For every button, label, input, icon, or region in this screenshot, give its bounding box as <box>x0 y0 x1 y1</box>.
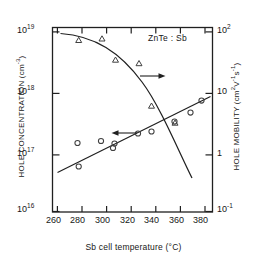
x-tick-label-260: 260 <box>46 215 61 225</box>
left-tick-label-1e16: 1016 <box>17 204 34 214</box>
right-tick-label-1e-1: 10-1 <box>217 204 233 214</box>
data-point-triangle <box>113 57 119 62</box>
data-point-circle <box>149 129 154 134</box>
y-axis-right-title: HOLE MOBILITY (cm2V-1s-1) <box>232 47 241 187</box>
concentration-data-points <box>75 98 204 169</box>
left-tick-label-1e19: 1019 <box>17 25 34 35</box>
mobility-data-points <box>76 36 178 125</box>
data-point-triangle <box>99 36 105 41</box>
bottom-axis-ticks <box>57 206 205 212</box>
x-tick-label-340: 340 <box>144 215 159 225</box>
data-point-circle <box>98 138 103 143</box>
x-tick-label-380: 380 <box>193 215 208 225</box>
right-axis-ticks <box>206 32 213 212</box>
right-pointer-arrow <box>140 73 166 78</box>
right-tick-label-1e2: 102 <box>217 25 231 35</box>
y-axis-left-title: HOLE CONCENTRATION (cm-3) <box>17 47 26 187</box>
right-tick-label-1: 1 <box>217 148 222 158</box>
figure-panel: ZnTe : Sb 1019 1018 1017 1016 102 10 1 1… <box>0 0 255 259</box>
left-axis-ticks <box>53 32 60 212</box>
data-point-circle <box>76 164 81 169</box>
x-tick-label-280: 280 <box>70 215 85 225</box>
data-point-triangle <box>149 103 155 108</box>
plot-frame <box>53 28 213 213</box>
x-tick-label-300: 300 <box>95 215 110 225</box>
series-annotation-label: ZnTe : Sb <box>148 33 187 43</box>
right-tick-label-10: 10 <box>217 86 227 96</box>
data-point-triangle <box>136 61 142 66</box>
x-tick-label-320: 320 <box>120 215 135 225</box>
data-point-triangle <box>76 37 82 42</box>
mobility-fit-curve <box>61 34 193 179</box>
x-axis-title: Sb cell temperature (°C) <box>46 242 221 252</box>
data-point-circle <box>188 110 193 115</box>
concentration-fit-line <box>58 97 211 173</box>
data-point-circle <box>75 140 80 145</box>
x-tick-label-360: 360 <box>169 215 184 225</box>
